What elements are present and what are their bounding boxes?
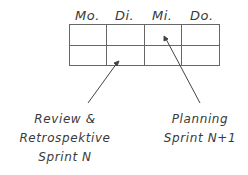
arrow-planning [166, 39, 200, 103]
annotation-review-line-2: Retrospektive [10, 129, 120, 148]
arrow-head-planning [164, 36, 168, 41]
annotation-review-line-1: Review & [10, 110, 120, 129]
annotation-review: Review & Retrospektive Sprint N [10, 110, 120, 167]
annotation-planning: Planning Sprint N+1 [160, 110, 240, 148]
arrow-review [88, 63, 117, 103]
annotation-planning-line-1: Planning [160, 110, 240, 129]
annotation-planning-line-2: Sprint N+1 [160, 129, 240, 148]
annotation-review-line-3: Sprint N [10, 148, 120, 167]
